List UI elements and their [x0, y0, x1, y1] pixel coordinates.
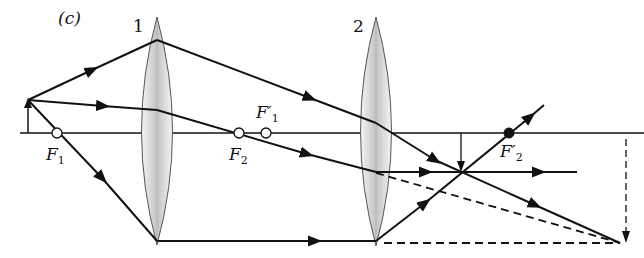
- ray-c: [28, 100, 544, 241]
- two-lens-ray-diagram: (c) 1 2 F1 F2 F′1 F′2: [0, 0, 644, 258]
- lens-2: [361, 17, 392, 246]
- label-f2: F2: [229, 146, 248, 166]
- label-f1-prime: F′1: [256, 104, 279, 124]
- focal-point-f1: [52, 128, 62, 138]
- ray-b-extension-dashed: [376, 173, 620, 243]
- panel-label: (c): [58, 10, 81, 27]
- lens-2-label: 2: [353, 18, 364, 35]
- focal-point-f1-prime: [261, 128, 271, 138]
- lens-1: [142, 17, 173, 245]
- focal-point-f2: [234, 128, 244, 138]
- diagram-canvas: [0, 0, 644, 258]
- ray-a: [28, 40, 620, 243]
- lens-1-label: 1: [133, 18, 144, 35]
- label-f1: F1: [46, 146, 65, 166]
- final-image-arrowhead-icon: [622, 231, 630, 243]
- ray-b: [28, 100, 577, 172]
- label-f2-prime: F′2: [500, 143, 523, 163]
- focal-point-f2-prime: [504, 128, 514, 138]
